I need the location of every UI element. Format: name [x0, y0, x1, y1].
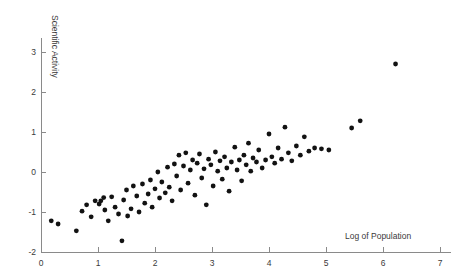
data-point: [193, 193, 198, 198]
data-point: [124, 188, 129, 193]
y-tick-label: 1: [31, 127, 36, 137]
data-point: [204, 202, 209, 207]
data-point: [84, 202, 89, 207]
data-point: [150, 205, 155, 210]
data-point: [215, 169, 220, 174]
data-point: [109, 194, 114, 199]
data-point: [218, 158, 223, 163]
data-point: [186, 181, 191, 186]
data-point: [248, 169, 253, 174]
data-point: [101, 195, 106, 200]
data-point: [211, 184, 216, 189]
data-point: [113, 205, 118, 210]
data-point: [129, 206, 134, 211]
scatter-plot-figure: -2-1012301234567Scientific ActivityLog o…: [0, 0, 452, 278]
data-point: [242, 153, 247, 158]
data-point: [349, 126, 354, 131]
data-point: [172, 162, 177, 167]
data-point: [121, 198, 126, 203]
data-point: [246, 141, 251, 146]
data-point: [220, 177, 225, 182]
data-point: [283, 125, 288, 130]
data-point: [165, 165, 170, 170]
data-point: [140, 182, 145, 187]
x-tick-label: 0: [39, 258, 44, 268]
data-point: [286, 150, 291, 155]
data-point: [74, 228, 79, 233]
data-point: [195, 161, 200, 166]
data-point: [125, 214, 130, 219]
data-point: [177, 153, 182, 158]
data-point: [137, 210, 142, 215]
data-point: [208, 162, 213, 167]
data-point: [155, 170, 160, 175]
data-point: [302, 134, 307, 139]
data-point: [256, 148, 261, 153]
data-point: [181, 164, 186, 169]
x-axis-title: Log of Population: [345, 231, 411, 241]
data-point: [267, 132, 272, 137]
data-point: [319, 146, 324, 151]
data-point: [393, 62, 398, 67]
x-tick-label: 1: [96, 258, 101, 268]
data-point: [148, 178, 153, 183]
data-point: [269, 154, 274, 159]
x-tick-label: 7: [438, 258, 443, 268]
data-point: [56, 222, 61, 227]
data-point: [358, 118, 363, 123]
data-point: [153, 186, 158, 191]
data-point: [197, 152, 202, 157]
x-tick-label: 6: [381, 258, 386, 268]
data-point: [202, 166, 207, 171]
data-point: [272, 161, 277, 166]
x-tick-label: 4: [267, 258, 272, 268]
data-point: [178, 188, 183, 193]
data-point: [157, 196, 162, 201]
data-point: [244, 162, 249, 167]
data-point: [159, 180, 164, 185]
y-tick-label: 2: [31, 87, 36, 97]
data-point: [120, 238, 125, 243]
data-point: [279, 157, 284, 162]
data-point: [237, 158, 242, 163]
data-point: [163, 190, 168, 195]
data-point: [116, 212, 121, 217]
plot-canvas: -2-1012301234567Scientific ActivityLog o…: [0, 0, 452, 278]
data-point: [227, 189, 232, 194]
data-point: [289, 158, 294, 163]
y-tick-label: 3: [31, 47, 36, 57]
data-point: [93, 198, 98, 203]
data-point: [298, 153, 303, 158]
data-point: [106, 218, 111, 223]
data-point: [229, 160, 234, 165]
data-point: [190, 158, 195, 163]
data-point: [146, 192, 151, 197]
data-point: [254, 160, 259, 165]
data-point: [134, 194, 139, 199]
data-point: [222, 154, 227, 159]
data-point: [206, 157, 211, 162]
data-point: [239, 178, 244, 183]
data-point: [294, 144, 299, 149]
y-axis-title: Scientific Activity: [50, 15, 60, 79]
data-point: [276, 146, 281, 151]
data-point: [167, 185, 172, 190]
data-point: [235, 168, 240, 173]
data-point: [224, 166, 229, 171]
data-point: [312, 146, 317, 151]
data-point: [326, 148, 331, 153]
data-point: [307, 149, 312, 154]
data-point: [170, 198, 175, 203]
data-point: [174, 174, 179, 179]
data-point: [131, 184, 136, 189]
y-tick-label: 0: [31, 167, 36, 177]
data-point: [49, 218, 54, 223]
data-point: [263, 158, 268, 163]
data-point-group: [49, 62, 398, 244]
y-tick-label: -2: [28, 247, 36, 257]
data-point: [213, 150, 218, 155]
data-point: [80, 209, 85, 214]
data-point: [232, 145, 237, 150]
x-tick-label: 3: [210, 258, 215, 268]
data-point: [199, 176, 204, 181]
